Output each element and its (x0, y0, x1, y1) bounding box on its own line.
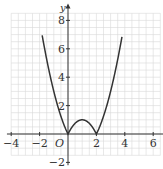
y-axis-label: y (59, 2, 66, 13)
x-tick-label: 6 (150, 137, 157, 150)
origin-label: O (55, 137, 64, 150)
y-tick-label: 4 (58, 71, 65, 84)
x-tick-label: −2 (31, 137, 47, 150)
x-tick-label: 4 (121, 137, 128, 150)
x-tick-label: 2 (93, 137, 100, 150)
y-tick-label: −2 (49, 156, 65, 169)
y-axis-arrow-icon (66, 4, 71, 9)
y-tick-label: 6 (58, 43, 65, 56)
x-tick-label: −4 (3, 137, 19, 150)
y-tick-label: 8 (58, 14, 65, 27)
function-plot: −4−2246−22468Oxy (0, 0, 163, 169)
